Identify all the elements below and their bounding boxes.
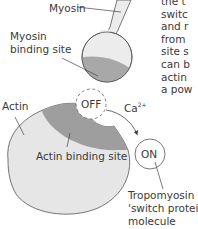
myosin-binding-site-label-1: Myosin	[10, 30, 47, 42]
paragraph-line: a pow	[161, 83, 198, 96]
myosin-binding-site-label-2: binding site	[10, 43, 71, 55]
paragraph-line: the t	[161, 0, 198, 8]
paragraph-line: switc	[161, 8, 198, 21]
paragraph-line: and r	[161, 20, 198, 33]
paragraph-line: site s	[161, 45, 198, 58]
paragraph-line: from	[161, 33, 198, 46]
on-label: ON	[141, 148, 157, 160]
myosin-label: Myosin	[49, 2, 86, 14]
calcium-symbol: Ca	[124, 102, 138, 114]
calcium-charge: 2+	[138, 101, 147, 108]
actin-label: Actin	[2, 100, 28, 112]
paragraph-line: actin	[161, 71, 198, 84]
actin-binding-site-label: Actin binding site	[36, 150, 127, 162]
off-label: OFF	[81, 98, 101, 110]
myosin-molecule	[78, 0, 134, 90]
body-text-fragment: the t switc and r from site s can b acti…	[161, 0, 198, 96]
calcium-label: Ca2+	[124, 99, 147, 114]
tropomyosin-label-2: 'switch protein'	[128, 202, 198, 214]
tropomyosin-label-3: molecule	[128, 215, 176, 227]
paragraph-line: can b	[161, 58, 198, 71]
tropomyosin-label-1: Tropomyosin	[128, 189, 194, 201]
